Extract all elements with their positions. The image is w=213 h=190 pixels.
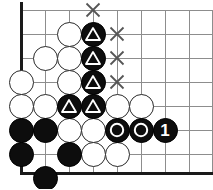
- go-stone-white: [57, 22, 82, 47]
- go-stone-white: [9, 94, 34, 119]
- go-stone-white: [33, 94, 58, 119]
- go-stone-white: [33, 46, 58, 71]
- circle-mark-icon: [133, 122, 149, 138]
- x-mark: [108, 49, 126, 67]
- grid-line-vertical: [189, 10, 190, 173]
- go-stone-white: [81, 142, 106, 167]
- x-mark: [84, 1, 102, 19]
- go-stone-white: [81, 118, 106, 143]
- go-stone-black: [57, 142, 82, 167]
- go-stone-black: [9, 142, 34, 167]
- grid-line-vertical: [212, 10, 213, 173]
- go-stone-black: [9, 118, 34, 143]
- triangle-mark-icon: [85, 99, 101, 113]
- x-mark: [108, 73, 126, 91]
- go-stone-black: [33, 166, 58, 190]
- circle-mark-icon: [109, 122, 125, 138]
- go-stone-white: [57, 70, 82, 95]
- go-board-diagram: 1: [0, 0, 213, 189]
- grid-line-vertical: [141, 10, 142, 173]
- triangle-mark-icon: [85, 51, 101, 65]
- go-stone-white: [105, 94, 130, 119]
- go-stone-white: [57, 46, 82, 71]
- triangle-mark-icon: [85, 27, 101, 41]
- triangle-mark-icon: [85, 75, 101, 89]
- move-number-label: 1: [153, 118, 178, 143]
- go-stone-white: [57, 118, 82, 143]
- go-stone-white: [105, 142, 130, 167]
- grid-line-vertical: [165, 10, 166, 173]
- go-stone-white: [129, 94, 154, 119]
- go-stone-white: [9, 70, 34, 95]
- x-mark: [108, 25, 126, 43]
- triangle-mark-icon: [61, 99, 77, 113]
- grid-line-vertical: [45, 10, 46, 173]
- go-stone-black: [33, 118, 58, 143]
